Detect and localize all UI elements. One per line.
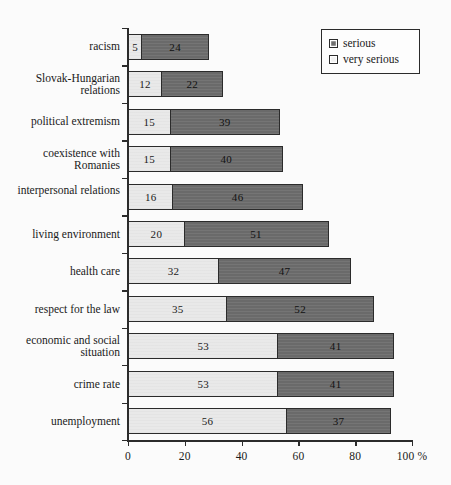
bar-value-label: 15 [143,116,155,128]
stacked-bar: 1222 [128,71,223,97]
category-label: health care [0,265,120,278]
chart-row: health care3247 [128,253,412,290]
x-axis-tick [128,440,129,446]
bar-segment-serious: 46 [172,184,303,210]
category-label: coexistence with Romanies [0,147,120,172]
category-label: racism [0,40,120,53]
chart-row: unemployment5637 [128,403,412,440]
bar-segment-very-serious: 15 [128,109,171,135]
bar-value-label: 35 [172,303,184,315]
legend-item-serious: serious [329,35,412,51]
chart-row: coexistence with Romanies1540 [128,140,412,177]
bar-segment-very-serious: 16 [128,184,173,210]
bar-value-label: 16 [145,191,157,203]
bar-segment-very-serious: 5 [128,34,142,60]
bar-segment-serious: 47 [218,258,351,284]
x-axis-tick-label: 60 [268,450,328,462]
bar-segment-very-serious: 56 [128,408,287,434]
bar-value-label: 32 [168,265,180,277]
bar-segment-very-serious: 53 [128,371,279,397]
category-label: political extremism [0,115,120,128]
bar-value-label: 12 [139,78,151,90]
bar-segment-serious: 24 [141,34,209,60]
bar-value-label: 41 [330,378,342,390]
bar-value-label: 24 [169,41,181,53]
x-axis-tick-label: 40 [212,450,272,462]
plot-area: racism524Slovak-Hungarian relations1222p… [128,28,412,440]
category-label: respect for the law [0,303,120,316]
x-axis-tick-label: 100 % [382,450,442,462]
bar-segment-serious: 40 [170,146,284,172]
y-axis-tick [122,440,128,441]
x-axis-tick [355,440,356,446]
chart-row: economic and social situation5341 [128,328,412,365]
bar-value-label: 47 [279,265,291,277]
bar-segment-very-serious: 32 [128,258,219,284]
chart-legend: seriousvery serious [321,29,420,74]
bar-value-label: 15 [143,153,155,165]
bar-value-label: 37 [333,415,345,427]
bar-segment-serious: 39 [170,109,281,135]
bar-segment-very-serious: 20 [128,221,185,247]
bar-segment-very-serious: 15 [128,146,171,172]
bar-value-label: 22 [186,78,198,90]
bar-segment-serious: 51 [184,221,329,247]
legend-label: very serious [343,51,399,67]
stacked-bar: 5341 [128,371,394,397]
bar-value-label: 40 [220,153,232,165]
x-axis-line [127,440,413,442]
category-label: Slovak-Hungarian relations [0,72,120,97]
bar-segment-serious: 41 [277,333,393,359]
stacked-bar: 3552 [128,296,374,322]
bar-segment-serious: 41 [277,371,393,397]
bar-value-label: 56 [202,415,214,427]
x-axis-tick [298,440,299,446]
bar-value-label: 53 [197,340,209,352]
stacked-bar: 1540 [128,146,283,172]
bar-value-label: 5 [132,41,138,53]
x-axis-tick [185,440,186,446]
bar-segment-serious: 52 [226,296,374,322]
stacked-bar: 5637 [128,408,391,434]
chart-row: interpersonal relations1646 [128,178,412,215]
x-axis-tick [412,440,413,446]
bar-value-label: 20 [151,228,163,240]
stacked-bar: 1646 [128,184,303,210]
bar-segment-very-serious: 53 [128,333,279,359]
bar-segment-serious: 22 [161,71,223,97]
chart-row: crime rate5341 [128,365,412,402]
chart-row: political extremism1539 [128,103,412,140]
bar-value-label: 53 [197,378,209,390]
bar-segment-very-serious: 35 [128,296,227,322]
x-axis-tick-label: 20 [155,450,215,462]
bar-segment-serious: 37 [286,408,391,434]
category-label: economic and social situation [0,334,120,359]
bar-segment-very-serious: 12 [128,71,162,97]
x-axis-tick-label: 0 [98,450,158,462]
x-axis-tick [242,440,243,446]
legend-label: serious [343,35,376,51]
legend-swatch-icon [329,55,338,64]
x-axis-tick-label: 80 [325,450,385,462]
stacked-bar: 5341 [128,333,394,359]
stacked-bar: 524 [128,34,209,60]
bar-value-label: 46 [232,191,244,203]
stacked-bar: 2051 [128,221,329,247]
bar-value-label: 52 [294,303,306,315]
category-label: living environment [0,228,120,241]
legend-swatch-icon [329,39,338,48]
stacked-bar: 1539 [128,109,280,135]
chart-row: living environment2051 [128,215,412,252]
bar-value-label: 51 [250,228,262,240]
category-label: unemployment [0,415,120,428]
bar-value-label: 41 [330,340,342,352]
legend-item-very-serious: very serious [329,51,412,67]
stacked-bar-chart: 020406080100 % racism524Slovak-Hungarian… [0,0,451,485]
chart-row: respect for the law3552 [128,290,412,327]
category-label: crime rate [0,378,120,391]
stacked-bar: 3247 [128,258,351,284]
bar-value-label: 39 [219,116,231,128]
category-label: interpersonal relations [0,184,120,197]
